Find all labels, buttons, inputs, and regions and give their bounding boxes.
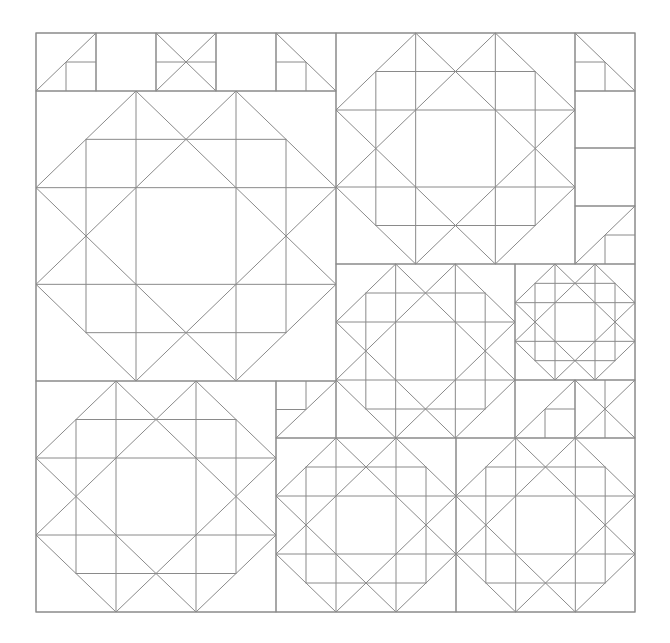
quilt-diagram xyxy=(0,0,670,643)
cell-right-2 xyxy=(575,91,635,148)
cell-top-2 xyxy=(96,33,156,91)
quilt-pattern-svg xyxy=(0,0,670,643)
block-small-right xyxy=(515,264,635,380)
cell-top-5 xyxy=(276,33,336,91)
block-center xyxy=(336,264,515,438)
cell-mid-right-1 xyxy=(515,380,575,438)
cell-right-1 xyxy=(575,33,635,91)
cell-right-3 xyxy=(575,148,635,206)
block-bottom-right xyxy=(456,438,635,612)
cell-top-3 xyxy=(156,33,216,91)
block-bottom-middle xyxy=(276,438,456,612)
block-large-left xyxy=(36,91,336,381)
cell-top-1 xyxy=(36,33,96,91)
cell-mid-right-2 xyxy=(575,380,635,438)
cell-right-4 xyxy=(575,206,635,264)
block-top-middle xyxy=(336,33,575,264)
cell-mid-left xyxy=(276,381,336,438)
cell-top-4 xyxy=(216,33,276,91)
block-bottom-left xyxy=(36,381,276,612)
